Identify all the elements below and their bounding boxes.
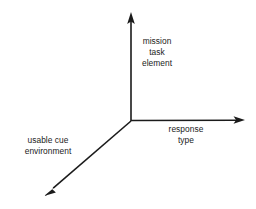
diagonal-axis-label-line-2: environment — [0, 146, 98, 157]
horizontal-axis-label-line-1: response — [136, 124, 236, 135]
diagonal-axis-label: usable cue environment — [0, 135, 98, 157]
horizontal-axis — [131, 116, 245, 123]
axes-drawing — [0, 0, 256, 209]
horizontal-axis-label: response type — [136, 124, 236, 146]
vertical-axis-label-line-3: element — [107, 58, 207, 69]
vertical-axis-label: mission task element — [107, 36, 207, 69]
horizontal-axis-label-line-2: type — [136, 135, 236, 146]
vertical-axis-label-line-1: mission — [107, 36, 207, 47]
diagram-canvas: mission task element response type usabl… — [0, 0, 256, 209]
diagonal-axis-label-line-1: usable cue — [0, 135, 98, 146]
diagonal-axis — [44, 121, 131, 196]
vertical-axis-label-line-2: task — [107, 47, 207, 58]
